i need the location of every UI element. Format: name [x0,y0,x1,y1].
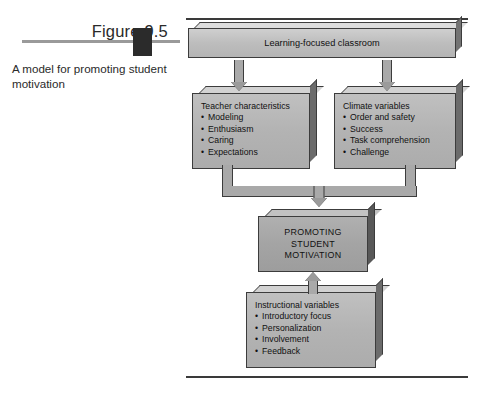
connector-stem-left [222,165,233,187]
box-promoting-student-motivation: PROMOTING STUDENT MOTIVATION [258,216,368,272]
box-teacher-characteristics: Teacher characteristics Modeling Enthusi… [192,93,310,169]
figure-caption-block: Figure 9.5 A model for promoting student… [0,0,182,393]
bullet-list-instructional: Introductory focus Personalization Invol… [255,311,376,357]
box-title-teacher: Teacher characteristics [201,101,310,112]
list-item: Expectations [201,147,310,158]
box-title-climate: Climate variables [343,101,456,112]
figure-marker-icon [133,28,152,56]
arrow-head [305,272,321,281]
list-item: Modeling [201,112,310,123]
box-title-classroom: Learning-focused classroom [188,28,456,58]
box-content-climate: Climate variables Order and safety Succe… [334,93,456,158]
list-item: Personalization [255,323,376,334]
figure-caption-text: A model for promoting student motivation [12,61,172,91]
list-item: Caring [201,135,310,146]
list-item: Order and safety [343,112,456,123]
arrow-instructional-to-promoting [304,272,322,294]
promoting-line-2: STUDENT [258,239,368,251]
diagram-bottom-rule [186,376,468,378]
bullet-list-climate: Order and safety Success Task comprehens… [343,112,456,158]
figure-rule [22,40,180,43]
box-instructional-variables: Instructional variables Introductory foc… [246,292,376,368]
box-bevel-side [456,16,462,52]
diagram-top-rule [186,18,468,20]
box-climate-variables: Climate variables Order and safety Succe… [334,93,456,169]
list-item: Introductory focus [255,311,376,322]
arrow-classroom-to-teacher [230,60,248,93]
box-bevel-top [199,86,324,93]
box-bevel-side [456,79,463,162]
box-content-instructional: Instructional variables Introductory foc… [246,292,376,357]
list-item: Challenge [343,147,456,158]
list-item: Involvement [255,334,376,345]
box-bevel-side [376,278,383,361]
arrow-head [379,82,395,91]
list-item: Enthusiasm [201,124,310,135]
box-title-instructional: Instructional variables [255,300,376,311]
list-item: Feedback [255,346,376,357]
box-learning-focused-classroom: Learning-focused classroom [188,28,456,58]
connector-stem-right [405,165,416,187]
connector-merge-to-promoting [210,165,428,217]
promoting-line-3: MOTIVATION [258,250,368,262]
box-bevel-side [310,79,317,162]
arrow-head [231,82,247,91]
box-content-teacher: Teacher characteristics Modeling Enthusi… [192,93,310,158]
arrow-head [311,198,327,207]
arrow-shaft [382,60,392,84]
arrow-classroom-to-climate [378,60,396,93]
box-bevel-top [341,86,470,93]
list-item: Success [343,124,456,135]
diagram-canvas: Learning-focused classroom Teacher chara… [182,0,488,393]
box-content-promoting: PROMOTING STUDENT MOTIVATION [258,216,368,262]
list-item: Task comprehension [343,135,456,146]
bullet-list-teacher: Modeling Enthusiasm Caring Expectations [201,112,310,158]
promoting-line-1: PROMOTING [258,227,368,239]
arrow-shaft [234,60,244,84]
